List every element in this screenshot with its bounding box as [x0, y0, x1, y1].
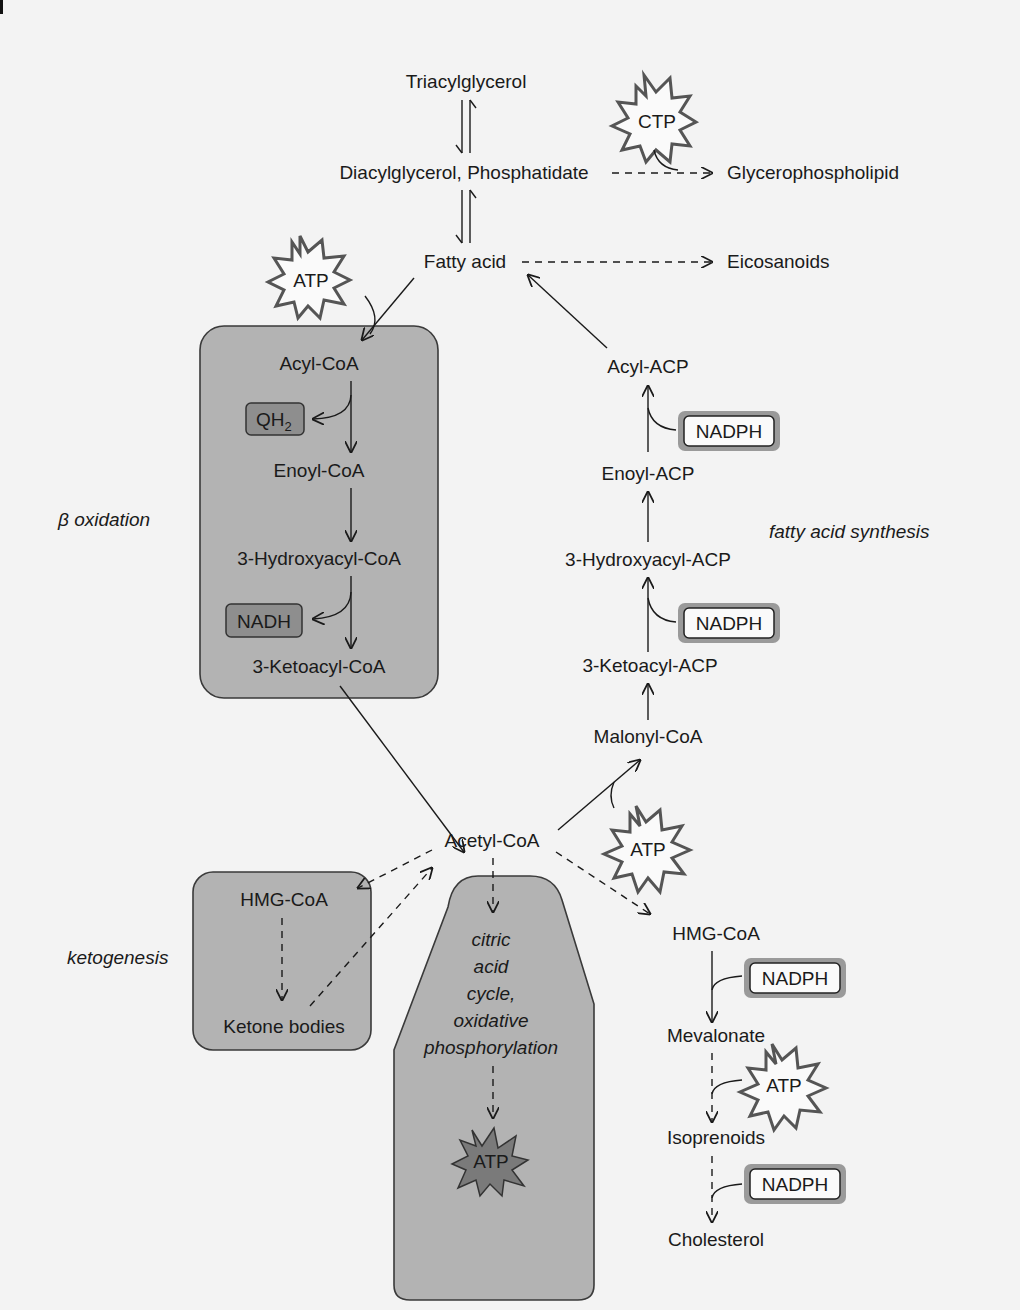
node-acyl-coa: Acyl-CoA: [279, 353, 359, 374]
node-isoprenoids: Isoprenoids: [667, 1127, 765, 1148]
node-eicosanoids: Eicosanoids: [727, 251, 829, 272]
node-hmg-coa-ketogenesis: HMG-CoA: [240, 889, 328, 910]
cofactor-ctp: CTP: [638, 111, 676, 132]
label-beta-oxidation: β oxidation: [57, 509, 150, 530]
cofactor-atp-malonyl: ATP: [630, 839, 666, 860]
atp-starburst-mevalonate: ATP: [740, 1044, 826, 1130]
node-hmg-coa-cholesterol: HMG-CoA: [672, 923, 760, 944]
atp-starburst-malonyl: ATP: [604, 806, 690, 892]
svg-text:phosphorylation: phosphorylation: [423, 1037, 558, 1058]
nadph-feed-acyl-acp: [648, 408, 676, 430]
arrow-acetyl-to-malonyl-coa: [558, 760, 640, 830]
svg-text:citric: citric: [471, 929, 511, 950]
arrow-acyl-acp-to-fatty-acid: [528, 275, 607, 348]
svg-text:oxidative: oxidative: [454, 1010, 529, 1031]
cofactor-atp-citric: ATP: [473, 1151, 509, 1172]
node-acyl-acp: Acyl-ACP: [607, 356, 688, 377]
arrow-ketoacyl-coa-to-acetyl-coa: [340, 686, 464, 852]
atp-feed-malonyl: [611, 782, 614, 808]
nadph-feed-hydroxyacyl-acp: [648, 598, 676, 622]
node-malonyl-coa: Malonyl-CoA: [594, 726, 703, 747]
node-triacylglycerol: Triacylglycerol: [406, 71, 527, 92]
cofactor-atp-mevalonate: ATP: [766, 1075, 802, 1096]
node-enoyl-acp: Enoyl-ACP: [602, 463, 695, 484]
node-3-hydroxyacyl-acp: 3-Hydroxyacyl-ACP: [565, 549, 731, 570]
equilibrium-arrow-dag-fa: [456, 190, 476, 243]
svg-text:acid: acid: [474, 956, 510, 977]
node-fatty-acid: Fatty acid: [424, 251, 506, 272]
cofactor-nadh: NADH: [237, 611, 291, 632]
lipid-metabolism-diagram: Triacylglycerol Diacylglycerol, Phosphat…: [0, 0, 1020, 1310]
node-ketone-bodies: Ketone bodies: [223, 1016, 345, 1037]
node-3-ketoacyl-coa: 3-Ketoacyl-CoA: [252, 656, 385, 677]
node-glycerophospholipid: Glycerophospholipid: [727, 162, 899, 183]
arrow-acetyl-to-hmg-coa-keto: [358, 850, 432, 888]
nadph-feed-hmg: [712, 976, 742, 990]
node-cholesterol: Cholesterol: [668, 1229, 764, 1250]
label-fatty-acid-synthesis: fatty acid synthesis: [769, 521, 930, 542]
cofactor-nadph-acyl-acp: NADPH: [696, 421, 763, 442]
beta-oxidation-box: [200, 326, 438, 698]
node-diacylglycerol-phosphatidate: Diacylglycerol, Phosphatidate: [339, 162, 588, 183]
node-mevalonate: Mevalonate: [667, 1025, 765, 1046]
node-3-ketoacyl-acp: 3-Ketoacyl-ACP: [582, 655, 717, 676]
cofactor-nadph-hydroxyacyl-acp: NADPH: [696, 613, 763, 634]
cofactor-nadph-hmg: NADPH: [762, 968, 829, 989]
label-ketogenesis: ketogenesis: [67, 947, 169, 968]
node-acetyl-coa: Acetyl-CoA: [444, 830, 539, 851]
cofactor-atp-fatty-acid: ATP: [293, 270, 329, 291]
svg-text:cycle,: cycle,: [467, 983, 516, 1004]
equilibrium-arrow-tag-dag: [456, 100, 476, 153]
node-3-hydroxyacyl-coa: 3-Hydroxyacyl-CoA: [237, 548, 401, 569]
atp-starburst-fatty-acid: ATP: [268, 236, 350, 318]
node-enoyl-coa: Enoyl-CoA: [274, 460, 365, 481]
ctp-starburst: CTP: [612, 75, 696, 170]
cofactor-nadph-isoprenoids: NADPH: [762, 1174, 829, 1195]
nadph-feed-isoprenoids: [712, 1184, 742, 1198]
